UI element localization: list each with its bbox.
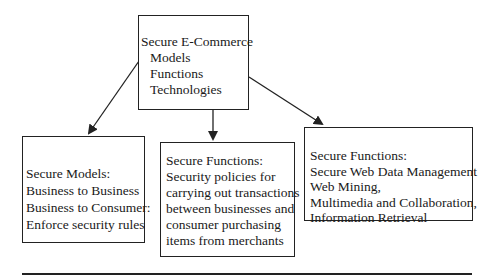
node-line: Web Mining,	[310, 179, 472, 195]
node-line: Secure Functions:	[310, 148, 472, 164]
node-line: Business to Consumer:	[26, 199, 144, 216]
node-line: carrying out transactions	[166, 185, 294, 201]
node-line: Security policies for	[166, 169, 294, 185]
root-item-technologies: Technologies	[141, 82, 248, 98]
node-secure-models: Secure Models: Business to Business Busi…	[22, 136, 145, 243]
node-line: Secure Web Data Management	[310, 164, 472, 180]
arrow-to-models	[89, 61, 139, 133]
node-line: Business to Business	[26, 182, 144, 199]
node-secure-functions-policies: Secure Functions: Security policies for …	[160, 142, 295, 257]
root-title: Secure E-Commerce	[141, 34, 248, 50]
node-secure-functions-web: Secure Functions: Secure Web Data Manage…	[304, 127, 473, 221]
node-line: between businesses and	[166, 201, 294, 217]
node-line: Multimedia and Collaboration,	[310, 195, 472, 211]
arrow-to-technologies	[249, 77, 322, 124]
root-item-models: Models	[141, 50, 248, 66]
node-line: Enforce security rules	[26, 216, 144, 233]
node-line: Secure Models:	[26, 165, 144, 182]
node-line: items from merchants	[166, 233, 294, 249]
node-line: consumer purchasing	[166, 217, 294, 233]
node-line: Information Retrieval	[310, 210, 472, 226]
node-line: Secure Functions:	[166, 153, 294, 169]
root-node-secure-ecommerce: Secure E-Commerce Models Functions Techn…	[138, 15, 249, 110]
root-item-functions: Functions	[141, 66, 248, 82]
